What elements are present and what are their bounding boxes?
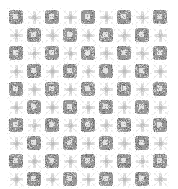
fractal-tiling-pattern-canvas xyxy=(0,0,178,189)
pattern-image-container xyxy=(0,0,178,189)
